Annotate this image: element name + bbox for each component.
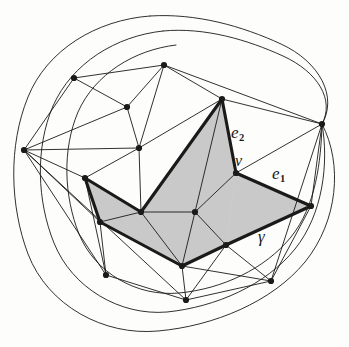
triangulation-edge bbox=[182, 266, 271, 281]
triangulation-edge bbox=[164, 65, 222, 99]
vertex-P bbox=[82, 175, 88, 181]
vertex-K bbox=[138, 209, 144, 215]
label-e2: e2 bbox=[231, 124, 244, 143]
vertex-B bbox=[179, 263, 185, 269]
vertex-Q bbox=[97, 219, 103, 225]
vertex-S bbox=[223, 242, 229, 248]
shaded-triangle bbox=[226, 173, 311, 245]
diagram-canvas bbox=[0, 0, 349, 347]
label-e1: e1 bbox=[272, 165, 285, 184]
vertex-E bbox=[308, 203, 314, 209]
outer-boundary-curve bbox=[163, 30, 326, 124]
triangulation-edge bbox=[74, 65, 164, 78]
triangulation-edge bbox=[127, 65, 164, 107]
label-v: v bbox=[235, 153, 242, 169]
triangulation-edge bbox=[85, 148, 139, 178]
triangulation-edge bbox=[127, 107, 139, 148]
label-e1-base: e bbox=[272, 164, 280, 183]
vertex-N bbox=[192, 209, 198, 215]
label-e2-base: e bbox=[231, 123, 239, 142]
vertex-C bbox=[136, 145, 142, 151]
triangulation-edge bbox=[182, 266, 186, 300]
triangulation-edge bbox=[226, 245, 271, 281]
vertex-BC bbox=[183, 297, 189, 303]
vertex-A bbox=[219, 96, 225, 102]
label-e1-subscript: 1 bbox=[280, 173, 285, 184]
vertex-T bbox=[161, 62, 167, 68]
vertex-TL bbox=[71, 75, 77, 81]
label-e2-subscript: 2 bbox=[239, 132, 244, 143]
vertex-L bbox=[21, 147, 27, 153]
label-gamma: γ bbox=[258, 228, 265, 245]
vertex-BL bbox=[103, 272, 109, 278]
triangulation-edge bbox=[222, 99, 322, 124]
vertex-R bbox=[319, 121, 325, 127]
vertex-BR bbox=[268, 278, 274, 284]
triangulation-edge bbox=[106, 275, 186, 300]
triangulation-edge bbox=[164, 65, 322, 124]
triangulation-edge bbox=[139, 148, 141, 212]
figure-triangulated-disc: e2 v e1 γ bbox=[0, 0, 349, 347]
triangulation-edge bbox=[74, 78, 127, 107]
vertex-V bbox=[233, 170, 239, 176]
vertex-M1 bbox=[124, 104, 130, 110]
